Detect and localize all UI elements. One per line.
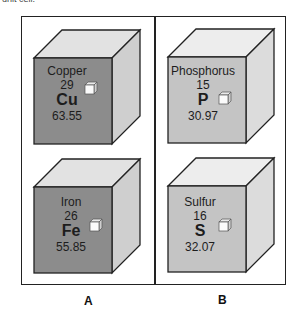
atomic-mass: 63.55 — [34, 110, 100, 122]
column-divider — [154, 16, 156, 285]
element-symbol: P — [165, 92, 241, 108]
atomic-mass: 30.97 — [165, 110, 241, 122]
element-name: Sulfur — [165, 196, 235, 208]
column-label-b: B — [218, 293, 227, 307]
element-card-copper: Copper 29 Cu 63.55 — [34, 65, 100, 122]
atomic-mass: 32.07 — [165, 241, 235, 253]
element-name: Copper — [34, 65, 100, 77]
header-text-fragment: unit cell. — [2, 0, 35, 4]
element-symbol: S — [165, 223, 235, 239]
element-card-sulfur: Sulfur 16 S 32.07 — [165, 196, 235, 253]
column-label-a: A — [84, 294, 93, 308]
element-symbol: Cu — [34, 92, 100, 108]
element-name: Iron — [38, 196, 104, 208]
element-symbol: Fe — [38, 223, 104, 239]
atomic-mass: 55.85 — [38, 241, 104, 253]
atomic-number: 29 — [34, 79, 100, 91]
atomic-number: 15 — [165, 79, 241, 91]
element-name: Phosphorus — [165, 65, 241, 77]
element-card-iron: Iron 26 Fe 55.85 — [38, 196, 104, 253]
atomic-number: 26 — [38, 210, 104, 222]
atomic-number: 16 — [165, 210, 235, 222]
element-card-phosphorus: Phosphorus 15 P 30.97 — [165, 65, 241, 122]
